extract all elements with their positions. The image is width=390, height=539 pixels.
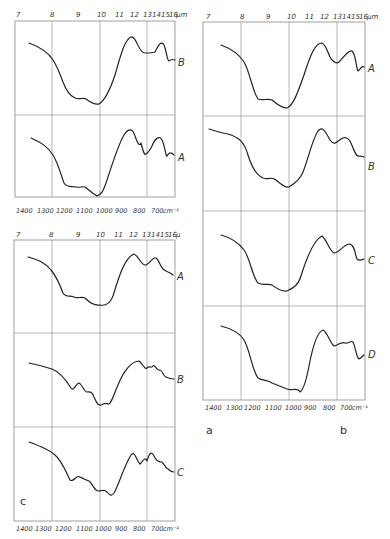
curve-label-b-D: D <box>368 349 376 360</box>
svg-text:12: 12 <box>129 231 138 239</box>
tick-8: 8 <box>50 11 55 19</box>
svg-text:800: 800 <box>133 207 145 215</box>
svg-text:800: 800 <box>133 525 145 533</box>
svg-text:13: 13 <box>333 13 342 21</box>
panel-a-bottom-axis: 1400 1300 1200 1100 1000 900 800 700 cm⁻… <box>16 207 179 215</box>
panel-c-frame <box>14 240 175 521</box>
svg-text:1200: 1200 <box>244 404 261 412</box>
spectrum-a-B <box>29 37 175 104</box>
spectrum-b-D <box>221 326 364 392</box>
svg-text:8: 8 <box>240 13 245 21</box>
tick-14: 14 <box>152 11 161 19</box>
tick-9: 9 <box>76 11 81 19</box>
svg-text:14: 14 <box>342 13 351 21</box>
svg-text:10: 10 <box>96 231 105 239</box>
panel-label-a: a <box>206 424 213 437</box>
panel-label-b: b <box>340 424 347 437</box>
svg-text:cm⁻¹: cm⁻¹ <box>163 525 179 533</box>
svg-text:1400: 1400 <box>205 404 222 412</box>
svg-text:cm⁻¹: cm⁻¹ <box>352 404 368 412</box>
svg-text:1300: 1300 <box>37 207 54 215</box>
ir-spectra-figure: 7 8 9 10 11 12 13 14 15 16 μm B A 1400 1… <box>0 0 390 539</box>
svg-text:11: 11 <box>305 13 314 21</box>
svg-text:μ: μ <box>175 231 181 239</box>
spectrum-c-A <box>28 254 173 305</box>
svg-text:μm: μm <box>366 13 378 21</box>
spectrum-a-A <box>31 130 174 196</box>
svg-text:7: 7 <box>16 231 21 239</box>
svg-text:9: 9 <box>266 13 271 21</box>
svg-text:11: 11 <box>114 231 123 239</box>
curve-label-c-C: C <box>177 467 184 478</box>
svg-text:1200: 1200 <box>55 525 72 533</box>
panel-label-c: c <box>20 495 26 508</box>
svg-text:14: 14 <box>151 231 160 239</box>
spectrum-c-B <box>29 361 174 405</box>
panel-b-bottom-axis: 1400 1300 1200 1100 1000 900 800 700 cm⁻… <box>205 404 368 412</box>
spectrum-b-A <box>221 43 364 108</box>
panel-a-top-axis: 7 8 9 10 11 12 13 14 15 16 μm <box>16 11 187 19</box>
curve-label-a-B: B <box>178 57 185 68</box>
panel-a: 7 8 9 10 11 12 13 14 15 16 μm B A 1400 1… <box>15 11 187 215</box>
svg-text:10: 10 <box>287 13 296 21</box>
tick-10: 10 <box>97 11 106 19</box>
svg-text:1300: 1300 <box>226 404 243 412</box>
svg-text:1400: 1400 <box>16 207 33 215</box>
svg-text:12: 12 <box>320 13 329 21</box>
svg-text:7: 7 <box>206 13 211 21</box>
svg-text:1000: 1000 <box>96 207 113 215</box>
panel-b: 7 8 9 10 11 12 13 14 15 16 μm A B C D <box>203 13 378 412</box>
tick-13: 13 <box>143 11 152 19</box>
curve-label-b-B: B <box>368 161 375 172</box>
svg-text:800: 800 <box>323 404 335 412</box>
svg-text:1100: 1100 <box>76 207 93 215</box>
svg-text:700: 700 <box>340 404 352 412</box>
spectrum-c-C <box>29 442 174 495</box>
curve-label-c-A: A <box>176 271 184 282</box>
svg-text:1000: 1000 <box>95 525 112 533</box>
svg-text:900: 900 <box>115 525 127 533</box>
svg-text:1200: 1200 <box>56 207 73 215</box>
spectrum-b-B <box>209 129 364 187</box>
svg-text:9: 9 <box>76 231 81 239</box>
svg-text:1400: 1400 <box>16 525 33 533</box>
panel-c: 7 8 9 10 11 12 13 14 15 16 μ A B C 1400 … <box>14 231 184 533</box>
svg-text:1000: 1000 <box>285 404 302 412</box>
svg-text:900: 900 <box>304 404 316 412</box>
svg-text:1100: 1100 <box>76 525 93 533</box>
unit-um: μm <box>175 11 187 19</box>
svg-text:1300: 1300 <box>35 525 52 533</box>
svg-text:8: 8 <box>49 231 54 239</box>
spectrum-b-C <box>221 235 364 291</box>
panel-b-top-axis: 7 8 9 10 11 12 13 14 15 16 μm <box>206 13 378 21</box>
curve-label-a-A: A <box>177 152 185 163</box>
curve-label-b-C: C <box>368 255 375 266</box>
svg-text:13: 13 <box>142 231 151 239</box>
tick-11: 11 <box>115 11 124 19</box>
svg-text:700: 700 <box>151 207 163 215</box>
panel-c-bottom-axis: 1400 1300 1200 1100 1000 900 800 700 cm⁻… <box>16 525 179 533</box>
curve-label-c-B: B <box>177 374 184 385</box>
svg-text:1100: 1100 <box>265 404 282 412</box>
svg-text:700: 700 <box>151 525 163 533</box>
panel-c-top-axis: 7 8 9 10 11 12 13 14 15 16 μ <box>16 231 181 239</box>
tick-7: 7 <box>16 11 21 19</box>
svg-text:cm⁻¹: cm⁻¹ <box>163 207 179 215</box>
curve-label-b-A: A <box>367 63 375 74</box>
tick-12: 12 <box>130 11 139 19</box>
svg-text:900: 900 <box>115 207 127 215</box>
